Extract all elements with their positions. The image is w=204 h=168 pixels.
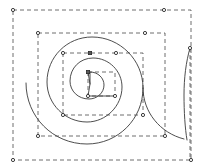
handle-core-bottom-right[interactable] <box>113 94 116 97</box>
handle-inner-top-mid[interactable] <box>88 51 91 54</box>
handle-spiral-end[interactable] <box>188 46 191 49</box>
bbox-inner[interactable] <box>63 53 143 115</box>
handle-second-top-left[interactable] <box>36 31 39 34</box>
handle-outer-top-right[interactable] <box>162 8 165 11</box>
handle-inner-bottom-left[interactable] <box>61 113 64 116</box>
handle-inner-bottom-right[interactable] <box>141 113 144 116</box>
handle-second-bottom-right[interactable] <box>163 134 166 137</box>
handle-second-top-right[interactable] <box>143 31 146 34</box>
handle-outer-bottom-left[interactable] <box>11 158 14 161</box>
vector-canvas[interactable] <box>0 0 204 168</box>
path-spiral-lead[interactable] <box>184 48 190 140</box>
bbox-second[interactable] <box>38 33 165 136</box>
handle-inner-top-right[interactable] <box>114 51 117 54</box>
handle-second-bottom-left[interactable] <box>36 134 39 137</box>
handle-outer-bottom-right[interactable] <box>189 158 192 161</box>
handle-inner-top-left[interactable] <box>61 51 64 54</box>
spiral-selection-artwork <box>0 0 204 168</box>
handle-outer-top-left[interactable] <box>11 8 14 11</box>
path-spiral-tail[interactable] <box>143 88 184 139</box>
handle-core-top-left[interactable] <box>86 70 89 73</box>
handle-core-bottom-left[interactable] <box>86 94 89 97</box>
